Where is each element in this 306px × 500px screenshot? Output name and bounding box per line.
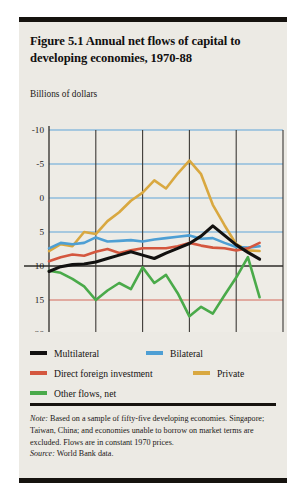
legend-label-bilateral: Bilateral [170,348,203,359]
top-rule [19,17,287,22]
legend-label-other-flows-net: Other flows, net [54,388,116,399]
line-chart-svg: 20151050-5-10197019741978198219861990 [19,87,287,332]
legend-swatch-private [193,371,210,375]
legend-label-private: Private [217,368,244,379]
y-tick-label: -10 [32,125,45,135]
y-tick-label: 15 [35,295,45,305]
legend-swatch-other-flows-net [30,391,47,395]
figure-notes: Note: Based on a sample of fifty-five de… [30,413,276,460]
legend-label-direct-foreign-investment: Direct foreign investment [54,368,153,379]
legend-swatch-bilateral [146,351,163,355]
note-label: Note: [30,414,48,423]
bottom-rule [19,478,287,483]
note-text: Based on a sample of fifty-five developi… [30,414,264,447]
legend-item-bilateral[interactable]: Bilateral [146,345,203,361]
legend-item-direct-foreign-investment[interactable]: Direct foreign investment [30,365,153,381]
legend-item-multilateral[interactable]: Multilateral [30,345,99,361]
y-tick-label: 0 [39,193,44,203]
chart-plot-area: 20151050-5-10197019741978198219861990 [19,87,287,332]
figure-card: Figure 5.1 Annual net flows of capital t… [19,17,287,483]
legend-label-multilateral: Multilateral [54,348,99,359]
legend-swatch-direct-foreign-investment [30,371,47,375]
y-tick-label: 5 [39,227,44,237]
figure-title: Figure 5.1 Annual net flows of capital t… [30,33,278,66]
legend-item-private[interactable]: Private [193,365,244,381]
legend-item-other-flows-net[interactable]: Other flows, net [30,385,116,401]
source-paragraph: Source: World Bank data. [30,448,276,460]
y-tick-label: 10 [35,261,45,271]
legend-separator-rule [30,403,276,406]
y-tick-label: 20 [35,329,45,332]
note-paragraph: Note: Based on a sample of fifty-five de… [30,413,276,448]
y-tick-label: -5 [36,159,44,169]
source-label: Source: [30,449,55,458]
source-text: World Bank data. [55,449,114,458]
chart-legend: Multilateral Bilateral Direct foreign in… [30,345,278,403]
legend-swatch-multilateral [30,351,47,355]
